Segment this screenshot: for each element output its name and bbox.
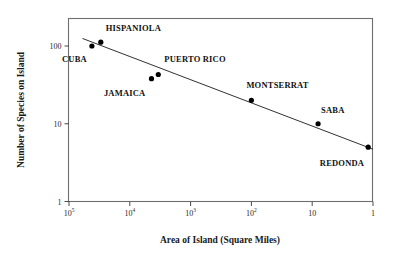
data-point-label: MONTSERRAT [246, 80, 308, 90]
data-point [249, 98, 254, 103]
y-axis-title: Number of Species on Island [16, 51, 26, 168]
species-area-chart: 105104103102101 100101 CUBAHISPANIOLAJAM… [0, 0, 395, 257]
data-point-label: JAMAICA [104, 88, 146, 98]
data-point-label: HISPANIOLA [106, 23, 162, 33]
y-tick-label: 1 [58, 198, 62, 207]
data-point-label: REDONDA [320, 158, 365, 168]
data-point [366, 145, 371, 150]
chart-canvas: 105104103102101 100101 CUBAHISPANIOLAJAM… [0, 0, 395, 257]
data-point [98, 40, 103, 45]
y-tick-label: 10 [54, 120, 62, 129]
data-point [156, 72, 161, 77]
data-point [149, 76, 154, 81]
data-point-label: SABA [321, 105, 345, 115]
y-tick-label: 100 [50, 42, 62, 51]
data-point [315, 121, 320, 126]
data-point [89, 43, 94, 48]
data-point-label: CUBA [62, 54, 88, 64]
x-tick-label: 10 [308, 209, 316, 218]
x-axis-title: Area of Island (Square Miles) [160, 235, 280, 246]
x-tick-label: 1 [371, 209, 375, 218]
data-point-label: PUERTO RICO [164, 54, 226, 64]
